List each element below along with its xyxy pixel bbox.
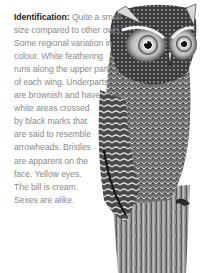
description-line: size compared to other owls.: [14, 24, 110, 37]
right-eye: [176, 36, 192, 52]
description-line: runs along the upper part: [14, 63, 110, 76]
description-line: of each wing. Underparts: [14, 76, 110, 89]
description-line: are brownish and have: [14, 89, 110, 102]
identification-label: Identification:: [14, 12, 70, 22]
description-line: colour. White feathering: [14, 50, 110, 63]
description-line: The bill is cream.: [14, 181, 110, 194]
description-line: Quite a small: [70, 12, 122, 22]
description-line: by black marks that: [14, 115, 110, 128]
description-line: Some regional variation in: [14, 37, 110, 50]
owl-head: [110, 4, 197, 84]
description-line: Sexes are alike.: [14, 194, 110, 207]
description-line: arrowheads. Bristles: [14, 141, 110, 154]
description-line: are said to resemble: [14, 128, 110, 141]
identification-paragraph: Identification: Quite a small size compa…: [14, 11, 110, 207]
description-line: white areas crossed: [14, 102, 110, 115]
description-line: are apparent on the: [14, 155, 110, 168]
left-eye: [138, 35, 158, 55]
description-line: face. Yellow eyes.: [14, 168, 110, 181]
first-line: Identification: Quite a small: [14, 11, 110, 24]
